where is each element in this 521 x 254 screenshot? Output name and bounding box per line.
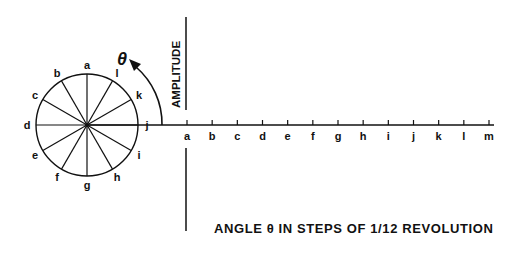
- tick-label-c: c: [234, 130, 240, 142]
- spoke-label-e: e: [32, 149, 38, 161]
- tick-label-m: m: [484, 130, 494, 142]
- tick-label-e: e: [285, 130, 291, 142]
- amplitude-label: AMPLITUDE: [170, 41, 182, 108]
- spoke-e: [43, 125, 87, 151]
- spoke-label-h: h: [114, 171, 121, 183]
- tick-label-a: a: [184, 130, 191, 142]
- tick-label-b: b: [209, 130, 216, 142]
- tick-label-h: h: [360, 130, 367, 142]
- spoke-k: [87, 100, 131, 126]
- spoke-i: [87, 125, 131, 151]
- spoke-c: [43, 100, 87, 126]
- spoke-label-a: a: [84, 59, 91, 71]
- spoke-label-i: i: [137, 149, 140, 161]
- tick-label-j: j: [411, 130, 415, 142]
- spoke-label-k: k: [136, 89, 143, 101]
- phase-diagram: abcdefghijkl θ AMPLITUDE abcdefghijklm A…: [0, 0, 521, 254]
- spoke-label-b: b: [54, 67, 61, 79]
- angle-axis-caption: ANGLE θ IN STEPS OF 1/12 REVOLUTION: [214, 221, 493, 236]
- spoke-h: [87, 125, 113, 169]
- spoke-b: [62, 81, 88, 125]
- tick-label-l: l: [462, 130, 465, 142]
- spoke-label-g: g: [84, 179, 91, 191]
- tick-label-d: d: [259, 130, 266, 142]
- tick-label-k: k: [436, 130, 443, 142]
- theta-symbol: θ: [117, 49, 127, 69]
- angle-axis-ticks: abcdefghijklm: [184, 120, 494, 142]
- spoke-label-c: c: [32, 89, 38, 101]
- spoke-l: [87, 81, 113, 125]
- spoke-label-f: f: [55, 171, 59, 183]
- tick-label-g: g: [335, 130, 342, 142]
- spoke-f: [62, 125, 88, 169]
- tick-label-f: f: [311, 130, 315, 142]
- tick-label-i: i: [387, 130, 390, 142]
- spoke-label-d: d: [24, 119, 31, 131]
